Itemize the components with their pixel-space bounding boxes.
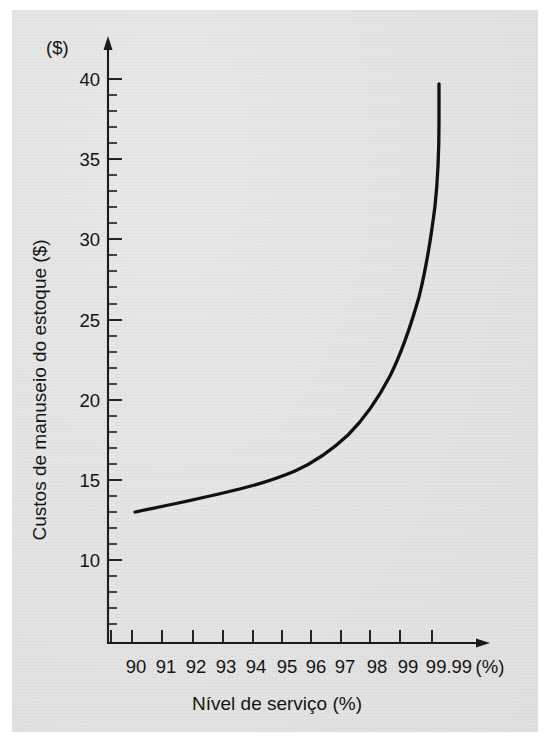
chart-figure-panel: ($) [12,10,538,732]
y-axis-unit-label: ($) [46,37,69,58]
x-tick-label: 99 [398,656,419,677]
x-tick-label: 91 [156,656,177,677]
x-tick-label: 90 [126,656,147,677]
x-axis-arrow-icon [476,639,490,648]
y-tick-label: 30 [79,229,100,250]
cost-vs-service-level-line-chart: ($) [12,10,538,732]
y-axis-arrow-icon [104,36,113,50]
x-tick-label: 98 [367,656,388,677]
x-axis-title: Nível de serviço (%) [192,693,362,714]
y-axis-major-ticks [108,79,122,560]
x-tick-label: 99.99 [426,656,472,677]
x-tick-label: 96 [306,656,327,677]
x-tick-label: 97 [335,656,356,677]
x-tick-label: 92 [186,656,207,677]
y-tick-label: 20 [79,390,100,411]
y-axis-title: Custos de manuseio do estoque ($) [29,239,50,540]
cost-curve [135,84,439,512]
x-axis-unit-label: (%) [476,656,505,677]
y-tick-label: 10 [79,550,100,571]
y-axis-tick-labels: 40 35 30 25 20 15 10 [79,69,100,571]
y-tick-label: 40 [79,69,100,90]
x-axis-tick-labels: 90 91 92 93 94 95 96 97 98 99 99.99 [126,656,472,677]
x-tick-label: 95 [277,656,298,677]
y-tick-label: 25 [79,310,100,331]
x-tick-label: 94 [246,656,267,677]
y-tick-label: 15 [79,470,100,491]
x-tick-label: 93 [216,656,237,677]
y-tick-label: 35 [79,149,100,170]
x-axis-ticks [111,630,432,643]
y-axis-minor-ticks [108,95,117,624]
